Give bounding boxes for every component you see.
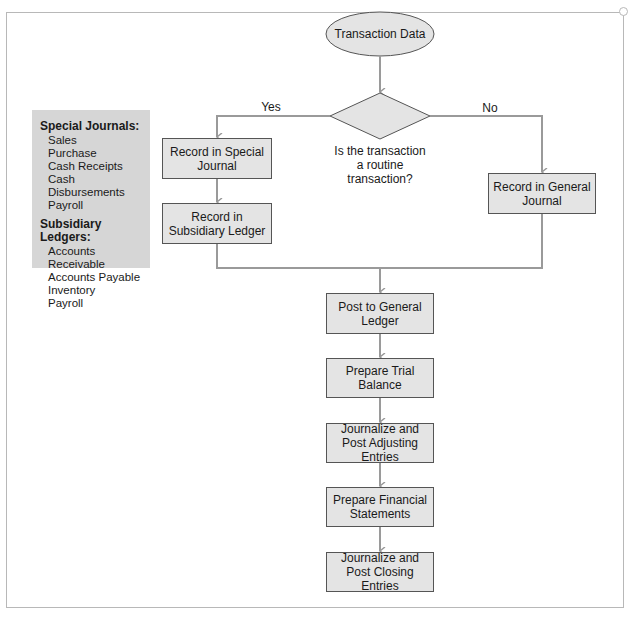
step-prepare-trial-balance: Prepare Trial Balance — [326, 358, 434, 398]
yes-label: Yes — [256, 100, 286, 114]
flow-connectors — [0, 0, 632, 620]
step-post-general-ledger: Post to General Ledger — [326, 293, 434, 334]
legend-item: Accounts Receivable — [40, 245, 150, 271]
start-terminator: Transaction Data — [326, 12, 434, 56]
decision-question: Is the transaction a routine transaction… — [330, 144, 430, 186]
step-adjusting-entries: Journalize and Post Adjusting Entries — [326, 423, 434, 463]
step-record-general-journal: Record in General Journal — [488, 173, 596, 214]
step-record-special-journal: Record in Special Journal — [162, 138, 272, 179]
legend-heading-subsidiary-ledgers: Subsidiary Ledgers: — [40, 218, 150, 245]
no-label: No — [478, 101, 502, 115]
legend-panel: Special Journals: Sales Purchase Cash Re… — [32, 110, 150, 268]
step-financial-statements: Prepare Financial Statements — [326, 487, 434, 527]
step-closing-entries: Journalize and Post Closing Entries — [326, 552, 434, 592]
legend-item: Inventory — [40, 284, 150, 297]
decision-diamond-shape — [330, 93, 430, 139]
legend-item: Accounts Payable — [40, 271, 150, 284]
legend-item: Cash Disbursements — [40, 173, 150, 199]
legend-item: Cash Receipts — [40, 160, 150, 173]
legend-item: Payroll — [40, 199, 150, 212]
step-record-subsidiary-ledger: Record in Subsidiary Ledger — [162, 203, 272, 244]
legend-heading-special-journals: Special Journals: — [40, 120, 150, 134]
legend-item: Payroll — [40, 297, 150, 310]
legend-item: Sales — [40, 134, 150, 147]
legend-item: Purchase — [40, 147, 150, 160]
